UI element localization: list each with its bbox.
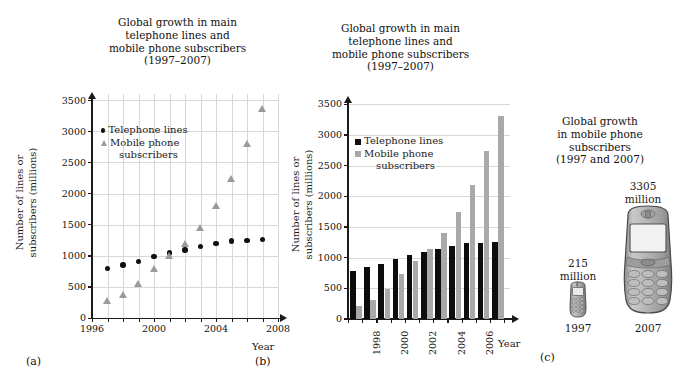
y-tick-label: 500 — [58, 281, 86, 292]
y-tickmark — [344, 104, 348, 105]
panel-a-legend: Telephone lines Mobile phone subscribers — [101, 124, 188, 162]
y-tickmark — [344, 226, 348, 227]
y-tick-label: 0 — [314, 313, 342, 324]
x-tickmark — [139, 318, 140, 322]
legend-item-telephone-lines: Telephone lines — [101, 124, 188, 137]
bar-mobile-subscribers — [413, 261, 419, 319]
bar-mobile-subscribers — [441, 233, 447, 319]
x-tick-label: 2002 — [427, 331, 438, 355]
x-tickmark — [391, 319, 392, 323]
data-point-telephone-lines — [213, 241, 218, 246]
bar-telephone-lines — [364, 267, 370, 319]
x-tick-label: 2000 — [399, 331, 410, 355]
x-tickmark — [362, 319, 363, 323]
y-tick-label: 3000 — [52, 126, 86, 137]
bar-mobile-subscribers — [356, 306, 362, 319]
legend-label-telephone-lines: Telephone lines — [108, 124, 187, 135]
bar-telephone-lines — [407, 255, 413, 319]
panel-a-y-axis-title-2: subscribers (millions) — [27, 95, 40, 310]
panel-b-letter: (b) — [255, 355, 271, 368]
data-point-telephone-lines — [120, 262, 125, 267]
legend-label-mobile-line-2: subscribers — [376, 160, 435, 171]
data-point-mobile-subscribers — [150, 265, 158, 272]
square-marker-gray-icon — [355, 151, 361, 157]
y-tickmark — [88, 193, 92, 194]
data-point-mobile-subscribers — [119, 291, 127, 298]
y-tick-label: 2000 — [52, 188, 86, 199]
panel-a-y-axis-arrow — [88, 92, 96, 99]
legend-label-telephone-lines: Telephone lines — [364, 135, 443, 146]
panel-c-small-value: 215 million — [547, 257, 609, 283]
x-tick-label: 2006 — [484, 331, 495, 355]
panel-c-large-phone-year: 2007 — [623, 322, 673, 334]
x-tickmark — [447, 319, 448, 323]
x-tickmark — [419, 319, 420, 323]
x-tickmark — [154, 318, 155, 322]
y-tick-label: 1000 — [52, 250, 86, 261]
panel-c-title: Global growth in mobile phone subscriber… — [515, 115, 685, 166]
bar-mobile-subscribers — [399, 274, 405, 319]
bar-mobile-subscribers — [456, 212, 462, 319]
y-tickmark — [344, 134, 348, 135]
panel-a-letter: (a) — [26, 355, 41, 368]
panel-c: Global growth in mobile phone subscriber… — [505, 0, 695, 380]
y-tick-label: 3500 — [52, 95, 86, 106]
data-point-mobile-subscribers — [181, 240, 189, 247]
legend-item-mobile-subscribers: Mobile phone — [101, 137, 188, 150]
figure-three-panel: Global growth in main telephone lines an… — [0, 0, 695, 380]
bar-telephone-lines — [350, 271, 356, 320]
bar-telephone-lines — [478, 243, 484, 319]
small-mobile-phone-icon — [567, 281, 589, 319]
x-tickmark — [92, 318, 93, 322]
x-tickmark — [462, 319, 463, 323]
y-tickmark — [344, 257, 348, 258]
x-tickmark — [108, 318, 109, 322]
panel-c-small-phone-year: 1997 — [553, 322, 603, 334]
panel-b-title: Global growth in main telephone lines an… — [308, 22, 493, 73]
x-tick-label: 2004 — [456, 331, 467, 355]
x-tick-label: 1998 — [371, 331, 382, 355]
panel-b-y-axis-title: Number of lines or — [290, 97, 303, 312]
bar-telephone-lines — [378, 264, 384, 319]
x-tickmark — [170, 318, 171, 322]
x-tickmark — [348, 319, 349, 323]
y-tickmark — [344, 288, 348, 289]
legend-item-telephone-lines: Telephone lines — [355, 135, 443, 148]
data-point-mobile-subscribers — [103, 297, 111, 304]
y-tick-label: 3500 — [308, 98, 342, 109]
y-tick-label: 2000 — [308, 190, 342, 201]
panel-b-legend: Telephone lines Mobile phone subscribers — [355, 135, 443, 173]
data-point-mobile-subscribers — [165, 252, 173, 259]
x-tickmark — [405, 319, 406, 323]
bar-telephone-lines — [449, 246, 455, 319]
y-tick-label: 0 — [58, 312, 86, 323]
bar-telephone-lines — [435, 249, 441, 319]
x-tickmark — [216, 318, 217, 322]
bar-telephone-lines — [393, 259, 399, 319]
bar-mobile-subscribers — [427, 249, 433, 319]
x-tickmark — [123, 318, 124, 322]
gridline-horizontal — [348, 104, 510, 105]
bar-telephone-lines — [421, 252, 427, 319]
legend-label-mobile-line-2: subscribers — [119, 149, 178, 160]
y-tick-label: 1500 — [308, 221, 342, 232]
data-point-mobile-subscribers — [212, 202, 220, 209]
x-tick-label: 2000 — [134, 323, 174, 334]
x-tickmark — [433, 319, 434, 323]
y-tickmark — [344, 196, 348, 197]
panel-c-letter: (c) — [540, 351, 555, 364]
panel-c-title-line-2: in mobile phone — [515, 128, 685, 141]
panel-c-large-value-number: 3305 — [603, 180, 683, 193]
y-tickmark — [88, 100, 92, 101]
x-tickmark — [376, 319, 377, 323]
large-mobile-phone-icon — [618, 205, 678, 315]
panel-b-y-axis-arrow — [344, 96, 352, 103]
triangle-marker-icon — [101, 140, 107, 146]
y-tick-label: 1500 — [52, 219, 86, 230]
panel-c-title-line-1: Global growth — [515, 115, 685, 128]
y-tickmark — [88, 255, 92, 256]
panel-b-y-axis-title-line-1: Number of lines or — [290, 157, 301, 253]
x-tickmark — [201, 318, 202, 322]
bar-mobile-subscribers — [498, 116, 504, 319]
data-point-mobile-subscribers — [134, 280, 142, 287]
